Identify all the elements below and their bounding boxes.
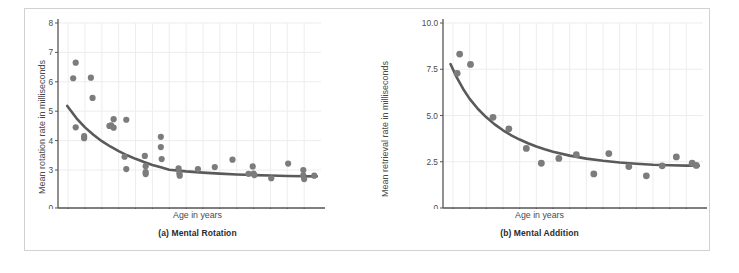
data-point	[88, 75, 94, 81]
data-point	[555, 155, 562, 162]
panel-caption-a: (a) Mental Rotation	[25, 228, 370, 238]
y-tick-label: 0	[48, 203, 53, 209]
data-point	[285, 160, 291, 166]
data-point	[73, 60, 79, 66]
fit-curve	[67, 106, 317, 176]
data-point	[605, 150, 612, 157]
x-axis-title-b: Age in years	[370, 210, 709, 220]
data-point	[311, 173, 317, 179]
data-point	[250, 163, 256, 169]
data-point	[505, 125, 512, 132]
data-point	[73, 124, 79, 130]
x-axis-title-a: Age in years	[25, 210, 370, 220]
data-point	[212, 164, 218, 170]
y-tick-label: 5	[48, 106, 53, 116]
y-tick-label: 8	[48, 18, 53, 28]
data-point	[123, 117, 129, 123]
data-point	[673, 154, 680, 161]
data-point	[111, 125, 117, 131]
data-point	[268, 175, 274, 181]
panel-mental-rotation: 03456788910111213141516171819202122 Mean…	[25, 9, 370, 252]
data-point	[251, 172, 257, 178]
data-point	[89, 95, 95, 101]
y-tick-label: 6	[48, 77, 53, 87]
data-point	[142, 153, 148, 159]
scatter-plot-b: 02.55.07.510.089101112131415161718192021…	[370, 9, 709, 209]
data-point	[538, 160, 545, 167]
y-tick-label: 10.0	[422, 18, 439, 28]
data-point	[70, 75, 76, 81]
y-tick-label: 5.0	[426, 111, 438, 121]
data-point	[693, 162, 700, 169]
data-point	[625, 163, 632, 170]
data-point	[195, 166, 201, 172]
panel-mental-addition: 02.55.07.510.089101112131415161718192021…	[370, 9, 709, 252]
figure-frame: 03456788910111213141516171819202122 Mean…	[24, 8, 710, 251]
fit-curve	[451, 64, 699, 166]
data-point	[467, 61, 474, 68]
y-tick-label: 7.5	[426, 64, 438, 74]
y-axis-title-a: Mean rotation rate in milliseconds	[37, 60, 47, 194]
y-tick-label: 4	[48, 136, 53, 146]
data-point	[300, 167, 306, 173]
data-point	[159, 156, 165, 162]
data-point	[301, 176, 307, 182]
data-point	[456, 51, 463, 58]
data-point	[158, 144, 164, 150]
y-tick-label: 0	[433, 203, 438, 209]
data-point	[111, 116, 117, 122]
data-point	[454, 70, 461, 77]
y-tick-label: 3	[48, 165, 53, 175]
scatter-plot-a: 03456788910111213141516171819202122	[25, 9, 370, 209]
data-point	[590, 171, 597, 178]
data-point	[121, 154, 127, 160]
data-point	[229, 157, 235, 163]
y-tick-label: 7	[48, 47, 53, 57]
data-point	[573, 151, 580, 158]
data-point	[177, 173, 183, 179]
data-point	[143, 163, 149, 169]
data-point	[643, 172, 650, 179]
y-tick-label: 2.5	[426, 157, 438, 167]
data-point	[490, 114, 497, 121]
data-point	[123, 166, 129, 172]
data-point	[659, 162, 666, 169]
y-axis-title-b: Mean retrieval rate in milliseconds	[380, 61, 390, 197]
data-point	[143, 171, 149, 177]
data-point	[158, 134, 164, 140]
data-point	[523, 145, 530, 152]
data-point	[81, 133, 87, 139]
panel-caption-b: (b) Mental Addition	[370, 228, 709, 238]
